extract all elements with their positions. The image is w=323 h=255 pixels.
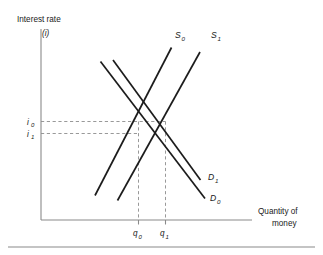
curves-group xyxy=(95,48,205,201)
curve-D1[interactable] xyxy=(113,60,201,180)
curve-label-S1-letter: S xyxy=(211,30,217,40)
curve-label-D0-letter: D xyxy=(210,193,216,203)
x-tick-label-q0: q 0 xyxy=(133,229,143,240)
y-axis-label-line2: (i) xyxy=(42,29,50,38)
curve-label-D1-subscript: 1 xyxy=(215,177,218,184)
x-tick-label-q1: q 1 xyxy=(160,229,169,240)
y-tick-label-i1: i 1 xyxy=(27,130,34,141)
x-tick-label-q1-letter: q xyxy=(160,229,165,238)
x-tick-label-q1-subscript: 1 xyxy=(166,234,169,240)
curve-label-D1: D 1 xyxy=(208,172,218,184)
y-tick-label-i1-subscript: 1 xyxy=(31,134,34,140)
x-tick-label-q0-letter: q xyxy=(133,229,138,238)
diagram-canvas: Interest rate (i) Quantity of money S 0 … xyxy=(0,0,323,255)
y-tick-label-i0: i 0 xyxy=(27,118,35,129)
x-axis-label: Quantity of money xyxy=(258,207,298,228)
curve-label-S1: S 1 xyxy=(211,30,221,42)
y-axis-label: Interest rate (i) xyxy=(17,15,61,38)
curve-label-S0-subscript: 0 xyxy=(182,35,186,42)
y-axis-label-line1: Interest rate xyxy=(17,15,61,24)
x-tick-marks xyxy=(139,220,166,225)
curve-label-D1-letter: D xyxy=(208,172,214,182)
x-axis-label-line1: Quantity of xyxy=(258,207,298,216)
y-tick-label-i1-letter: i xyxy=(27,130,29,139)
curve-label-D0-subscript: 0 xyxy=(217,198,221,205)
curve-label-S0: S 0 xyxy=(175,30,186,42)
supply-demand-figure: Interest rate (i) Quantity of money S 0 … xyxy=(0,0,323,255)
y-tick-label-i0-letter: i xyxy=(27,118,29,127)
x-tick-label-q0-subscript: 0 xyxy=(139,234,143,240)
curve-label-D0: D 0 xyxy=(210,193,221,205)
guide-lines-group xyxy=(41,122,166,221)
curve-label-S1-subscript: 1 xyxy=(218,35,221,42)
axes-group xyxy=(41,29,252,220)
y-tick-label-i0-subscript: 0 xyxy=(31,122,35,128)
curve-label-S0-letter: S xyxy=(175,30,181,40)
x-axis-label-line2: money xyxy=(272,219,297,228)
